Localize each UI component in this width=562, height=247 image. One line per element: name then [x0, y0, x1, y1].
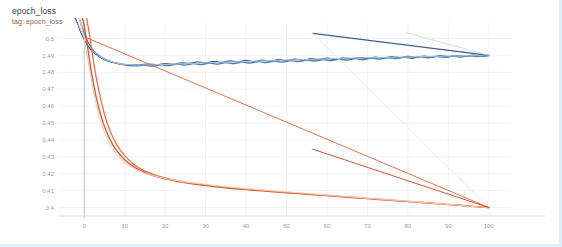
- chart-axes: [58, 20, 545, 219]
- x-tick-label: 80: [405, 223, 412, 229]
- x-axis-tick-labels: 0102030405060708090100: [83, 223, 495, 229]
- x-tick-label: 40: [243, 223, 250, 229]
- series-line: [313, 149, 489, 207]
- x-tick-label: 100: [484, 223, 495, 229]
- y-tick-label: 0.43: [42, 154, 54, 160]
- x-tick-label: 30: [202, 223, 209, 229]
- series-line: [79, 18, 488, 66]
- y-tick-label: 0.44: [42, 137, 54, 143]
- horizontal-gridlines: [58, 38, 511, 207]
- x-tick-label: 10: [121, 223, 128, 229]
- series-line: [313, 33, 489, 207]
- x-tick-label: 90: [445, 223, 452, 229]
- x-tick-label: 60: [324, 223, 331, 229]
- y-tick-label: 0.49: [42, 53, 54, 59]
- y-axis-tick-labels: 0.40.410.420.430.440.450.460.470.480.490…: [42, 36, 54, 211]
- y-tick-label: 0.5: [46, 36, 55, 42]
- y-tick-label: 0.41: [42, 188, 54, 194]
- vertical-gridlines: [125, 22, 489, 216]
- x-tick-label: 0: [83, 223, 87, 229]
- series-line: [87, 18, 489, 207]
- x-tick-label: 20: [162, 223, 169, 229]
- data-series-group: [74, 18, 489, 207]
- series-line: [83, 18, 489, 207]
- x-tick-label: 50: [283, 223, 290, 229]
- series-line: [86, 38, 489, 208]
- series-line: [406, 33, 489, 56]
- y-tick-label: 0.46: [42, 103, 54, 109]
- y-tick-label: 0.45: [42, 120, 54, 126]
- line-chart-svg[interactable]: 0.40.410.420.430.440.450.460.470.480.490…: [0, 0, 562, 247]
- y-tick-label: 0.4: [46, 205, 55, 211]
- y-tick-label: 0.48: [42, 69, 54, 75]
- series-line: [79, 18, 488, 207]
- plot-area[interactable]: 0.40.410.420.430.440.450.460.470.480.490…: [0, 0, 562, 247]
- chart-card: epoch_loss tag: epoch_loss 0.40.410.420.…: [0, 0, 562, 247]
- y-tick-label: 0.47: [42, 86, 54, 92]
- series-line: [313, 33, 489, 55]
- y-tick-label: 0.42: [42, 171, 54, 177]
- x-tick-label: 70: [364, 223, 371, 229]
